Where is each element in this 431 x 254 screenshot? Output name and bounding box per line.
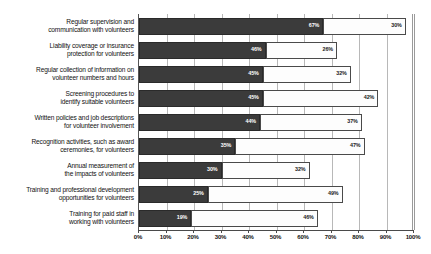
category-label: Regular collection of information onvolu… (0, 66, 134, 82)
bar-row: 45%42% (139, 90, 412, 107)
x-axis-tick (138, 230, 139, 233)
category-label: Written policies and job descriptionsfor… (0, 114, 134, 130)
bar-row: 45%32% (139, 66, 412, 83)
bar-value-label: 37% (347, 119, 358, 124)
x-axis-tick (276, 230, 277, 233)
x-axis-tick (248, 230, 249, 233)
x-axis-tick-label: 30% (215, 234, 226, 240)
x-axis-tick-label: 80% (352, 234, 363, 240)
bar-value-label: 19% (177, 215, 188, 220)
x-axis-tick (166, 230, 167, 233)
x-axis-tick (386, 230, 387, 233)
bar-row: 44%37% (139, 114, 412, 131)
category-label: Recognition activities, such as awardcer… (0, 138, 134, 154)
bar-value-label: 47% (350, 143, 361, 148)
bar-segment-dark: 45% (139, 66, 263, 83)
x-axis-tick (221, 230, 222, 233)
bar-segment-dark: 44% (139, 114, 260, 131)
bar-row: 46%26% (139, 42, 412, 59)
bar-value-label: 32% (336, 71, 347, 76)
bar-row: 35%47% (139, 138, 412, 155)
x-axis-tick-label: 50% (270, 234, 281, 240)
x-axis-tick (303, 230, 304, 233)
bar-segment-light: 49% (208, 186, 343, 203)
bar-segment-light: 46% (191, 210, 318, 227)
bar-segment-dark: 67% (139, 18, 323, 35)
category-label: Regular supervision andcommunication wit… (0, 18, 134, 34)
horizontal-stacked-bar-chart: Regular supervision andcommunication wit… (0, 0, 431, 254)
bar-segment-dark: 45% (139, 90, 263, 107)
bar-segment-light: 42% (263, 90, 379, 107)
bar-segment-light: 32% (222, 162, 310, 179)
x-axis-tick-label: 60% (297, 234, 308, 240)
x-axis-tick-label: 10% (160, 234, 171, 240)
bar-value-label: 30% (207, 167, 218, 172)
x-axis-tick-labels: 0%10%20%30%40%50%60%70%80%90%100% (138, 234, 413, 246)
bar-value-label: 32% (295, 167, 306, 172)
x-axis-tick (193, 230, 194, 233)
bar-segment-light: 32% (263, 66, 351, 83)
gridline (414, 14, 415, 230)
bar-value-label: 46% (303, 215, 314, 220)
category-label: Screening procedures toidentify suitable… (0, 90, 134, 106)
bar-segment-light: 47% (235, 138, 364, 155)
bar-value-label: 25% (193, 191, 204, 196)
x-axis-tick (358, 230, 359, 233)
category-label: Liability coverage or insuranceprotectio… (0, 42, 134, 58)
x-axis-tick (331, 230, 332, 233)
bar-segment-light: 30% (323, 18, 406, 35)
bar-value-label: 67% (309, 23, 320, 28)
x-axis-tick-label: 100% (406, 234, 421, 240)
bar-value-label: 45% (248, 95, 259, 100)
bar-segment-dark: 46% (139, 42, 266, 59)
bar-segment-light: 37% (260, 114, 362, 131)
plot-area: 67%30%46%26%45%32%45%42%44%37%35%47%30%3… (138, 14, 413, 230)
bar-value-label: 44% (246, 119, 257, 124)
bar-value-label: 26% (323, 47, 334, 52)
bar-row: 67%30% (139, 18, 412, 35)
bar-rows: 67%30%46%26%45%32%45%42%44%37%35%47%30%3… (139, 14, 412, 230)
bar-segment-dark: 35% (139, 138, 235, 155)
category-label: Training and professional developmentopp… (0, 186, 134, 202)
x-axis-tick-label: 0% (134, 234, 142, 240)
category-label: Training for paid staff inworking with v… (0, 210, 134, 226)
bar-segment-dark: 30% (139, 162, 222, 179)
bar-value-label: 49% (328, 191, 339, 196)
bar-value-label: 30% (391, 23, 402, 28)
bar-segment-dark: 19% (139, 210, 191, 227)
x-axis-tick-label: 90% (380, 234, 391, 240)
x-axis-tick-label: 20% (187, 234, 198, 240)
bar-value-label: 46% (251, 47, 262, 52)
bar-value-label: 42% (364, 95, 375, 100)
x-axis-tick (413, 230, 414, 233)
bar-row: 30%32% (139, 162, 412, 179)
x-axis-tick-label: 40% (242, 234, 253, 240)
bar-row: 19%46% (139, 210, 412, 227)
bar-segment-dark: 25% (139, 186, 208, 203)
category-label: Annual measurement ofthe impacts of volu… (0, 162, 134, 178)
bar-row: 25%49% (139, 186, 412, 203)
bar-value-label: 45% (248, 71, 259, 76)
category-axis-labels: Regular supervision andcommunication wit… (0, 14, 134, 230)
x-axis-tick-label: 70% (325, 234, 336, 240)
bar-value-label: 35% (221, 143, 232, 148)
bar-segment-light: 26% (266, 42, 338, 59)
